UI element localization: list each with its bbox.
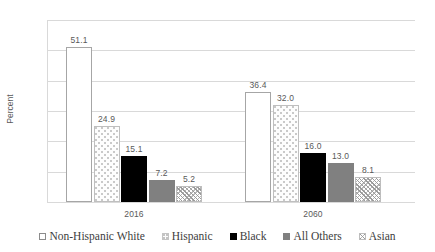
legend-swatch-icon [283, 233, 290, 240]
bar [273, 105, 299, 202]
y-axis-title-wrap: Percent [2, 0, 18, 252]
bar [245, 92, 271, 202]
bar-value-label: 15.1 [114, 144, 154, 154]
legend-swatch-icon [162, 233, 169, 240]
legend-item-label: All Others [293, 230, 341, 242]
x-axis-category-label: 2016 [104, 209, 164, 219]
bar [176, 186, 202, 202]
legend-swatch-icon [230, 233, 237, 240]
bar-value-label: 5.2 [169, 174, 209, 184]
x-axis-category-label: 2060 [283, 209, 343, 219]
legend-item-label: Non-Hispanic White [49, 230, 144, 242]
bar [121, 156, 147, 202]
bar-value-label: 32.0 [266, 93, 306, 103]
legend-item[interactable]: Non-Hispanic White [39, 230, 144, 242]
gridline [47, 81, 415, 82]
legend-swatch-icon [39, 233, 46, 240]
bar-value-label: 24.9 [87, 114, 127, 124]
gridline [47, 111, 415, 112]
bar [66, 47, 92, 202]
chart-legend: Non-Hispanic WhiteHispanicBlackAll Other… [0, 230, 435, 242]
bar-chart: Percent 0.010.020.030.040.050.060.0 51.1… [0, 0, 435, 252]
legend-item[interactable]: Black [230, 230, 267, 242]
legend-item[interactable]: Asian [359, 230, 396, 242]
legend-item-label: Hispanic [172, 230, 213, 242]
bar [355, 177, 381, 202]
bar-value-label: 8.1 [348, 165, 388, 175]
plot-area: 51.124.915.17.25.236.432.016.013.08.1 [47, 20, 415, 202]
bar-value-label: 13.0 [321, 151, 361, 161]
gridline [47, 202, 415, 203]
legend-item[interactable]: All Others [283, 230, 341, 242]
legend-swatch-icon [359, 233, 366, 240]
legend-item[interactable]: Hispanic [162, 230, 213, 242]
gridline [47, 50, 415, 51]
y-axis-title: Percent [5, 77, 15, 141]
bar-value-label: 36.4 [238, 80, 278, 90]
legend-item-label: Black [240, 230, 267, 242]
bar-value-label: 51.1 [59, 35, 99, 45]
legend-item-label: Asian [369, 230, 396, 242]
gridline [47, 20, 415, 21]
bar [94, 126, 120, 202]
y-axis-line [47, 20, 48, 202]
bar [300, 153, 326, 202]
